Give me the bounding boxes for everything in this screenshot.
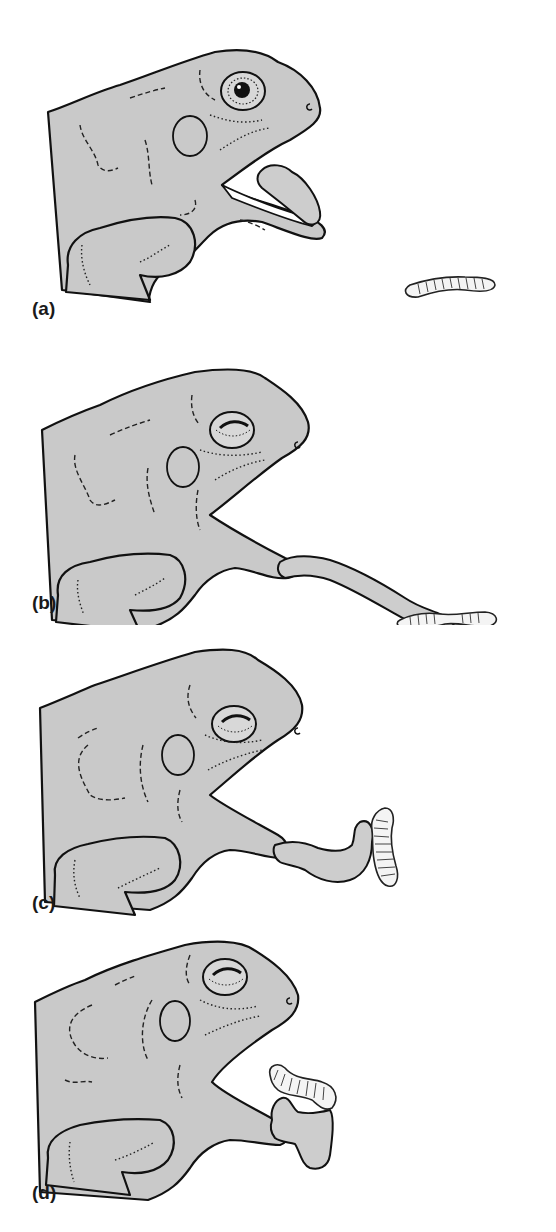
panel-d: (d) xyxy=(0,920,556,1232)
panel-b: (b) xyxy=(0,330,556,625)
frog-illustration-c xyxy=(0,630,556,920)
panel-a: (a) xyxy=(0,0,556,325)
panel-label-a: (a) xyxy=(32,298,55,320)
panel-label-b: (b) xyxy=(32,592,56,614)
frog-illustration-b xyxy=(0,330,556,625)
frog-illustration-a xyxy=(0,0,556,325)
worm-c xyxy=(372,808,398,886)
worm-a xyxy=(406,277,495,297)
panel-label-d: (d) xyxy=(32,1182,56,1204)
panel-label-c: (c) xyxy=(32,892,55,914)
frog-illustration-d xyxy=(0,920,556,1232)
panel-c: (c) xyxy=(0,630,556,920)
